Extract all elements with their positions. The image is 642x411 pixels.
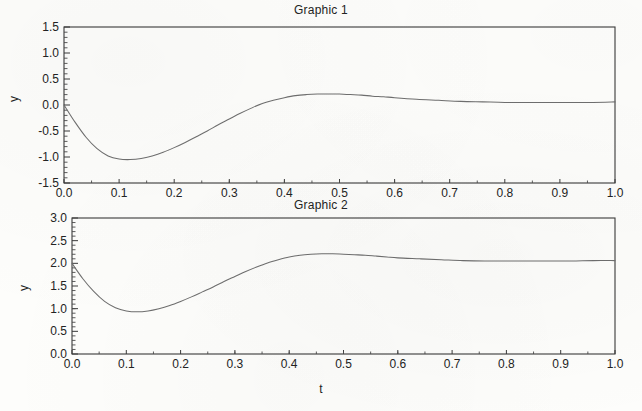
svg-text:1.0: 1.0 xyxy=(50,302,67,316)
svg-text:1.0: 1.0 xyxy=(42,46,59,60)
svg-text:0.5: 0.5 xyxy=(42,72,59,86)
chart-panel-graphic-2: Graphic 2 y t 0.00.51.01.52.02.53.00.00.… xyxy=(0,196,642,411)
svg-text:-0.5: -0.5 xyxy=(38,124,59,138)
data-curve xyxy=(64,94,615,160)
svg-text:0.5: 0.5 xyxy=(50,324,67,338)
svg-text:0.4: 0.4 xyxy=(281,357,298,371)
svg-text:0.5: 0.5 xyxy=(335,357,352,371)
svg-text:0.0: 0.0 xyxy=(64,357,81,371)
svg-text:-1.0: -1.0 xyxy=(38,150,59,164)
svg-text:0.3: 0.3 xyxy=(227,357,244,371)
svg-text:1.5: 1.5 xyxy=(50,279,67,293)
svg-text:0.2: 0.2 xyxy=(172,357,189,371)
svg-text:0.9: 0.9 xyxy=(552,357,569,371)
data-curve xyxy=(72,254,615,312)
plot-area-graphic-2: 0.00.51.01.52.02.53.00.00.10.20.30.40.50… xyxy=(0,196,642,411)
svg-text:1.5: 1.5 xyxy=(42,20,59,34)
svg-text:0.7: 0.7 xyxy=(444,357,461,371)
svg-text:2.0: 2.0 xyxy=(50,256,67,270)
svg-text:2.5: 2.5 xyxy=(50,234,67,248)
plot-area-graphic-1: -1.5-1.0-0.50.00.51.01.50.00.10.20.30.40… xyxy=(0,0,642,198)
svg-text:0.1: 0.1 xyxy=(118,357,135,371)
chart-panel-graphic-1: Graphic 1 y -1.5-1.0-0.50.00.51.01.50.00… xyxy=(0,0,642,198)
svg-text:0.8: 0.8 xyxy=(498,357,515,371)
svg-text:0.0: 0.0 xyxy=(42,98,59,112)
svg-text:3.0: 3.0 xyxy=(50,211,67,225)
svg-text:1.0: 1.0 xyxy=(607,357,624,371)
svg-text:0.6: 0.6 xyxy=(389,357,406,371)
figure-container: Graphic 1 y -1.5-1.0-0.50.00.51.01.50.00… xyxy=(0,0,642,411)
